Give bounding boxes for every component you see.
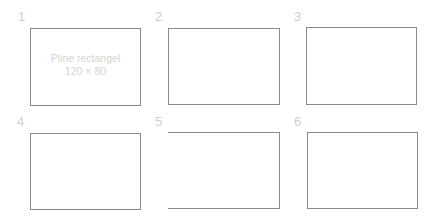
- rectangle-1: Pline rectangel 120 × 80: [30, 28, 141, 106]
- panel-4-label: 4: [17, 115, 24, 128]
- panel-5-label: 5: [155, 115, 162, 128]
- panel-2-label: 2: [155, 10, 162, 23]
- rectangle-3: [306, 27, 417, 105]
- rectangle-4: [30, 133, 141, 210]
- panel-6-label: 6: [294, 115, 301, 128]
- panel-3-label: 3: [294, 10, 301, 23]
- rectangle-5-open-left: [168, 132, 280, 209]
- caption-dimensions: 120 × 80: [31, 65, 140, 78]
- rectangle-1-caption: Pline rectangel 120 × 80: [31, 52, 140, 78]
- rectangle-2: [168, 28, 280, 105]
- rectangle-6: [307, 132, 418, 209]
- caption-title: Pline rectangel: [31, 52, 140, 65]
- panel-1-label: 1: [18, 10, 25, 23]
